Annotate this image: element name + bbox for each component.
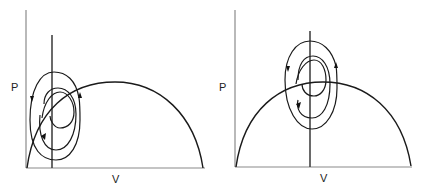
right-x-axis-label: V xyxy=(320,172,327,184)
left-arrow-down-icon xyxy=(30,96,34,102)
right-y-axis-label: P xyxy=(219,81,226,93)
right-arrow-down-icon xyxy=(286,66,290,72)
right-panel xyxy=(235,10,412,167)
diagram-canvas xyxy=(0,0,422,191)
left-spiral xyxy=(30,72,82,160)
left-y-axis-label: P xyxy=(11,81,18,93)
right-arrow-inner-icon xyxy=(296,102,301,109)
left-x-axis-label: V xyxy=(112,173,119,185)
right-spiral xyxy=(285,41,338,129)
left-panel xyxy=(26,10,205,168)
